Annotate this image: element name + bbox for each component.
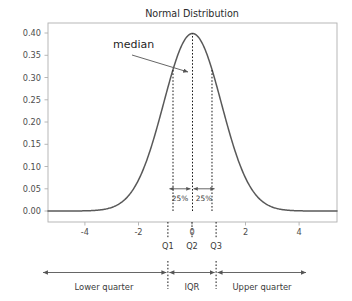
normal-distribution-chart: Normal Distribution 0.00 0.05 0.10 0.15 … [0,0,352,301]
y-axis-tick-labels: 0.00 0.05 0.10 0.15 0.20 0.25 0.30 0.35 … [23,28,41,216]
x-tick-label: 0 [189,227,194,237]
pct-left-label: 25% [172,194,188,203]
y-tick-label: 0.40 [23,28,41,38]
chart-root: Normal Distribution 0.00 0.05 0.10 0.15 … [0,0,352,301]
iqr-label: IQR [185,282,200,292]
pct-right-label: 25% [196,194,212,203]
y-tick-label: 0.30 [23,73,41,83]
y-tick-label: 0.15 [23,139,41,149]
q3-label: Q3 [210,241,222,251]
x-tick-label: -4 [81,227,89,237]
x-tick-label: 2 [243,227,248,237]
x-tick-label: -2 [134,227,142,237]
y-tick-label: 0.05 [23,184,41,194]
x-tick-label: 4 [296,227,301,237]
median-label: median [113,38,154,51]
y-tick-label: 0.10 [23,162,41,172]
upper-quarter-label: Upper quarter [232,282,292,292]
y-tick-label: 0.00 [23,206,41,216]
y-tick-label: 0.20 [23,117,41,127]
x-axis-tick-labels: -4 -2 0 2 4 [81,227,302,237]
y-axis-ticks [45,33,49,211]
y-tick-label: 0.25 [23,95,41,105]
chart-title: Normal Distribution [145,8,239,19]
y-tick-label: 0.35 [23,50,41,60]
q1-label: Q1 [162,241,174,251]
lower-quarter-label: Lower quarter [75,282,134,292]
q2-label: Q2 [186,241,198,251]
